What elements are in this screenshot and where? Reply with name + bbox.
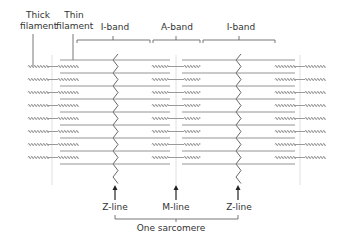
thick-filament-zigzag: [275, 78, 295, 81]
thick-filament-zigzag: [184, 156, 200, 159]
thick-filament-zigzag: [152, 65, 168, 68]
thick-filament-zigzag: [58, 78, 78, 81]
thick-filament-zigzag: [152, 143, 168, 146]
thick-filament-zigzag: [58, 156, 78, 159]
thick-filament-zigzag: [28, 156, 48, 159]
thick-filament-zigzag: [58, 104, 78, 107]
thick-filament-zigzag: [58, 117, 78, 120]
m-line-label: M-line: [160, 202, 192, 213]
thick-filament-zigzag: [184, 117, 200, 120]
thick-filament-zigzag: [305, 156, 325, 159]
i-band-right-bracket: [203, 40, 275, 43]
thick-filament-zigzag: [28, 117, 48, 120]
thick-filament-zigzag: [275, 65, 295, 68]
thick-filament-zigzag: [152, 91, 168, 94]
i-band-left-bracket: [77, 40, 150, 43]
thick-filament-zigzag: [184, 143, 200, 146]
thick-filament-zigzag: [275, 91, 295, 94]
z-line-right-label: Z-line: [224, 202, 254, 213]
sarcomere-label: One sarcomere: [136, 223, 206, 234]
thick-filament-zigzag: [184, 91, 200, 94]
m-line-arrow-icon: [174, 185, 179, 190]
thick-filament-zigzag: [184, 104, 200, 107]
thick-filament-zigzag: [58, 91, 78, 94]
thick-filament-zigzag: [28, 65, 48, 68]
thick-filament-zigzag: [275, 104, 295, 107]
thick-filament-zigzag: [305, 130, 325, 133]
thick-filament-zigzag: [305, 117, 325, 120]
thick-filament-zigzag: [152, 130, 168, 133]
a-band-label: A-band: [160, 22, 194, 33]
thick-filament-zigzag: [152, 117, 168, 120]
thick-filament-zigzag: [58, 65, 78, 68]
thick-filament-zigzag: [184, 78, 200, 81]
thick-filament-zigzag: [58, 130, 78, 133]
thick-filament-zigzag: [184, 130, 200, 133]
z-line-left-arrow-icon: [113, 185, 118, 190]
thick-filament-zigzag: [58, 143, 78, 146]
thick-filament-zigzag: [28, 104, 48, 107]
z-line-right-arrow-icon: [236, 185, 241, 190]
i-band-right-label: I-band: [226, 22, 256, 33]
thick-filament-zigzag: [28, 130, 48, 133]
thick-filament-zigzag: [152, 156, 168, 159]
thick-filament-zigzag: [28, 143, 48, 146]
i-band-left-label: I-band: [100, 22, 130, 33]
thick-filament-zigzag: [305, 143, 325, 146]
thick-filament-zigzag: [275, 117, 295, 120]
thick-filament-zigzag: [305, 65, 325, 68]
z-line-left-label: Z-line: [100, 202, 130, 213]
thick-filament-zigzag: [305, 104, 325, 107]
thick-filament-zigzag: [305, 78, 325, 81]
thick-filament-zigzag: [152, 78, 168, 81]
thick-filament-zigzag: [275, 130, 295, 133]
thick-filament-zigzag: [152, 104, 168, 107]
thick-filament-zigzag: [275, 143, 295, 146]
thick-filament-zigzag: [28, 78, 48, 81]
sarcomere-diagram: Thick filament Thin filament I-band A-ba…: [0, 0, 338, 250]
thin-filament-label: Thin filament: [56, 10, 92, 32]
thick-filament-zigzag: [305, 91, 325, 94]
thick-filament-zigzag: [275, 156, 295, 159]
thick-filament-label: Thick filament: [20, 10, 56, 32]
thick-filament-zigzag: [184, 65, 200, 68]
thick-filament-zigzag: [28, 91, 48, 94]
sarcomere-bracket: [115, 215, 238, 219]
a-band-bracket: [153, 40, 200, 43]
